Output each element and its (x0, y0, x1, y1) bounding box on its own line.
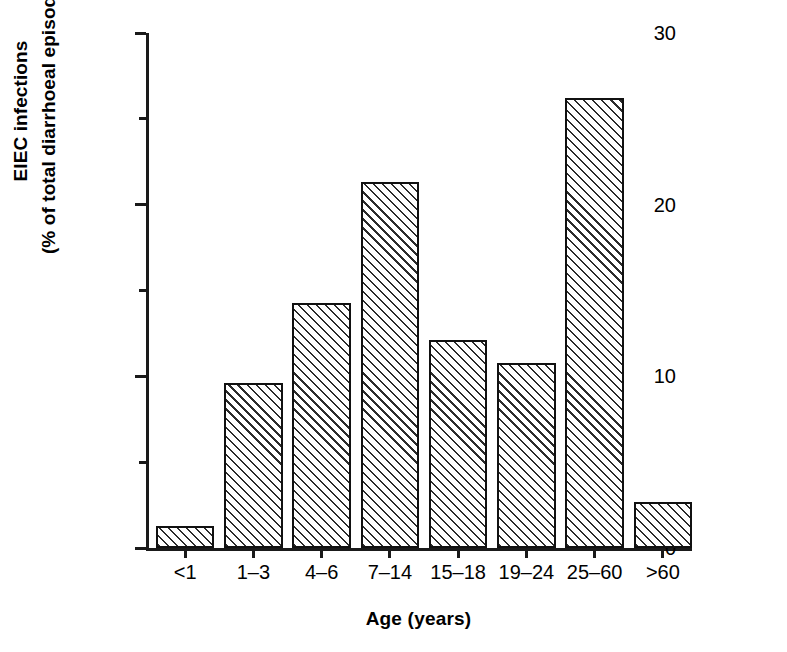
y-axis-title-line1: EIEC infections (7, 41, 35, 182)
y-tick-major (135, 32, 146, 35)
chart-figure: EIEC infections (% of total diarrhoeal e… (0, 0, 787, 652)
y-tick-label: 30 (654, 22, 676, 45)
x-tick-label: 15–18 (430, 561, 486, 584)
y-tick-major (135, 375, 146, 378)
y-tick-major (135, 547, 146, 550)
bar (292, 303, 350, 548)
y-axis-title: EIEC infections (% of total diarrhoeal e… (0, 0, 70, 346)
bar (429, 340, 487, 548)
y-tick-label: 20 (654, 193, 676, 216)
plot-area: 0102030 <11–34–67–1415–1819–2425–60>60 (146, 33, 692, 548)
bar (497, 363, 555, 548)
x-tick (252, 548, 255, 558)
x-tick-label: 4–6 (305, 561, 338, 584)
bar (361, 182, 419, 548)
y-tick-minor (139, 117, 146, 120)
x-tick (388, 548, 391, 558)
bar (634, 502, 692, 548)
y-tick-label: 10 (654, 365, 676, 388)
x-tick (320, 548, 323, 558)
y-tick-major (135, 203, 146, 206)
bar (224, 383, 282, 548)
x-tick-label: 1–3 (237, 561, 270, 584)
x-tick (593, 548, 596, 558)
y-tick-minor (139, 461, 146, 464)
x-tick-label: 19–24 (499, 561, 555, 584)
x-tick (525, 548, 528, 558)
bar (156, 526, 214, 548)
x-tick (184, 548, 187, 558)
x-tick-label: 7–14 (368, 561, 413, 584)
x-tick-label: 25–60 (567, 561, 623, 584)
x-tick-label: >60 (646, 561, 680, 584)
y-tick-minor (139, 289, 146, 292)
y-axis-title-line2: (% of total diarrhoeal episodes) (35, 0, 63, 254)
x-tick (661, 548, 664, 558)
x-axis-line (146, 548, 692, 551)
bar (565, 98, 623, 548)
x-tick (457, 548, 460, 558)
x-axis-title: Age (years) (146, 608, 691, 630)
y-axis-line (146, 33, 149, 548)
x-tick-label: <1 (174, 561, 197, 584)
